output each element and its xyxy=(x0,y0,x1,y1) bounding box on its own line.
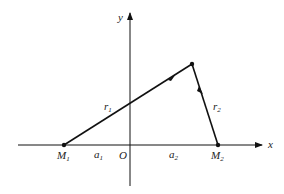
y-axis-label: y xyxy=(117,11,123,23)
point-p xyxy=(190,62,194,66)
x-axis-label: x xyxy=(267,138,273,150)
r2-label: r2 xyxy=(213,100,221,114)
segment-r1 xyxy=(64,64,192,145)
origin-label: O xyxy=(119,149,127,161)
a2-label: a2 xyxy=(169,148,179,162)
a1-label: a1 xyxy=(94,148,103,162)
diagram-svg: y x O M1 M2 r1 r2 a1 a2 xyxy=(0,0,284,194)
point-m1 xyxy=(62,143,66,147)
point-m2 xyxy=(216,143,220,147)
diagram-canvas: y x O M1 M2 r1 r2 a1 a2 xyxy=(0,0,284,194)
m2-label: M2 xyxy=(210,149,224,163)
r1-label: r1 xyxy=(104,100,112,114)
m1-label: M1 xyxy=(56,149,70,163)
